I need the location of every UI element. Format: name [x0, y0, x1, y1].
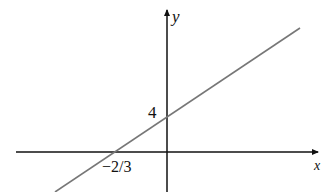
plotted-line — [55, 28, 300, 192]
y-axis-label: y — [170, 7, 180, 26]
graph-canvas: y x 4 −2/3 — [0, 0, 321, 192]
x-axis-label: x — [313, 158, 321, 173]
y-intercept-label: 4 — [148, 103, 157, 122]
x-intercept-label: −2/3 — [102, 158, 131, 175]
